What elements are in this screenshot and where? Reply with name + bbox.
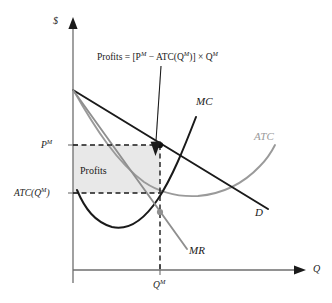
atc-tick-prefix: ATC(Q <box>14 188 41 198</box>
x-axis-title: Q <box>313 264 320 274</box>
price-tick-label: PM <box>41 139 52 151</box>
formula-close: )] × Q <box>189 52 212 62</box>
profit-formula-annotation: Profits = [PM − ATC(QM)] × QM <box>97 51 218 63</box>
quantity-tick-superscript: M <box>160 278 165 285</box>
chart-canvas <box>0 0 332 303</box>
atc-curve-label: ATC <box>254 131 274 142</box>
atc-tick-suffix: ) <box>47 188 50 198</box>
quantity-tick-label: QM <box>153 279 165 291</box>
atc-tick-label: ATC(QM) <box>14 187 50 199</box>
mr-curve-label: MR <box>189 245 205 256</box>
x-axis <box>73 265 306 274</box>
price-tick-superscript: M <box>47 138 52 145</box>
formula-lead: Profits = [P <box>97 52 141 62</box>
y-axis-title: $ <box>53 16 58 26</box>
demand-curve-label: D <box>255 207 263 218</box>
mr-mc-intersection-dot <box>157 209 163 215</box>
formula-superscript-3: M <box>213 50 218 57</box>
quantity-tick-base: Q <box>153 280 160 290</box>
profits-region-label: Profits <box>80 166 107 176</box>
annotation-leader-arrow <box>151 66 161 156</box>
mc-curve-label: MC <box>196 96 213 107</box>
monopoly-profit-chart: $ Q PM ATC(QM) QM MC ATC D MR Profits Pr… <box>0 0 332 303</box>
formula-middle: − ATC(Q <box>146 52 184 62</box>
